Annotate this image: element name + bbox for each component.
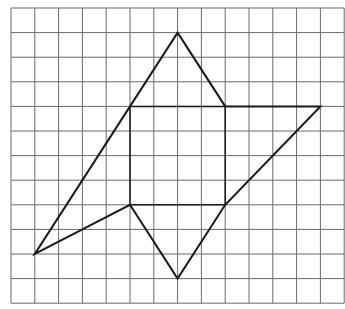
- grid-lines: [11, 8, 344, 303]
- grid-diagram: [0, 0, 345, 309]
